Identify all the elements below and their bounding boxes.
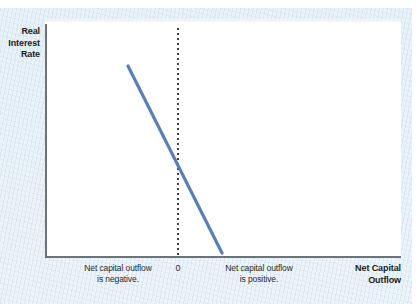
y-axis-label-line-2: Interest	[0, 38, 40, 50]
annotation-positive-outflow: Net capital outflow is positive.	[196, 263, 322, 284]
zero-tick-label: 0	[166, 263, 190, 273]
annotation-positive-line-2: is positive.	[196, 274, 322, 285]
annotation-negative-outflow: Net capital outflow is negative.	[55, 263, 181, 284]
nco-curve-line	[128, 66, 222, 253]
y-axis-label: Real Interest Rate	[0, 26, 40, 61]
x-axis-label: Net Capital Outflow	[320, 263, 401, 286]
annotation-negative-line-1: Net capital outflow	[55, 263, 181, 274]
figure-container: Real Interest Rate Net capital outflow i…	[0, 0, 419, 304]
net-capital-outflow-curve	[45, 22, 401, 258]
y-axis-label-line-3: Rate	[0, 49, 40, 61]
annotation-negative-line-2: is negative.	[55, 274, 181, 285]
x-axis-label-line-1: Net Capital	[320, 263, 401, 275]
x-axis-label-line-2: Outflow	[320, 275, 401, 287]
y-axis-label-line-1: Real	[0, 26, 40, 38]
annotation-positive-line-1: Net capital outflow	[196, 263, 322, 274]
